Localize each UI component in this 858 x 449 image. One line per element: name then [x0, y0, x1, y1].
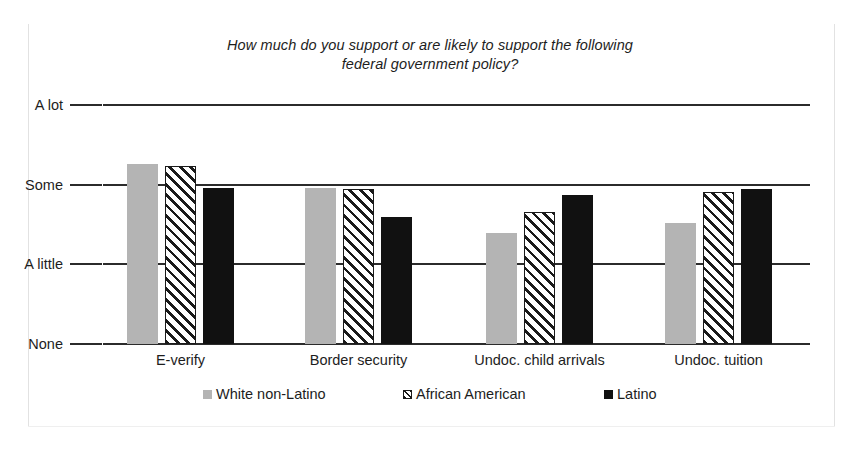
chart-legend: White non-LatinoAfrican AmericanLatino	[0, 386, 858, 406]
bar-latino	[203, 188, 234, 344]
frame-border-right	[834, 24, 835, 426]
bar-white-non-latino	[665, 223, 696, 344]
chart-title-line-1: How much do you support or are likely to…	[130, 36, 730, 55]
y-axis-tick	[70, 184, 102, 186]
x-axis-label-undoc-child-arrivals: Undoc. child arrivals	[474, 352, 605, 368]
gridline	[103, 184, 810, 186]
y-axis-tick-label: A lot	[35, 97, 63, 113]
y-axis-tick-label: A little	[24, 256, 63, 272]
legend-swatch-latino-icon	[604, 390, 613, 399]
bar-white-non-latino	[486, 233, 517, 344]
legend-label: African American	[416, 386, 526, 402]
frame-border-bottom	[28, 426, 835, 427]
y-axis-tick-label: Some	[25, 177, 63, 193]
y-axis-tick-label: None	[28, 336, 63, 352]
bar-latino	[381, 217, 412, 344]
y-axis-tick	[70, 343, 102, 345]
chart-figure: How much do you support or are likely to…	[0, 0, 858, 449]
bar-white-non-latino	[305, 188, 336, 344]
frame-border-left	[28, 24, 29, 426]
plot-area: NoneA littleSomeA lot	[103, 105, 810, 344]
legend-item-african-american[interactable]: African American	[403, 386, 526, 402]
chart-title: How much do you support or are likely to…	[130, 36, 730, 74]
legend-label: Latino	[617, 386, 657, 402]
y-axis-tick	[70, 104, 102, 106]
bar-african-american	[165, 166, 196, 344]
bar-african-american	[343, 189, 374, 344]
legend-label: White non-Latino	[216, 386, 326, 402]
chart-title-line-2: federal government policy?	[130, 55, 730, 74]
legend-item-latino[interactable]: Latino	[604, 386, 657, 402]
legend-item-white-non-latino[interactable]: White non-Latino	[203, 386, 326, 402]
gridline	[103, 104, 810, 106]
bar-african-american	[703, 192, 734, 344]
bar-latino	[562, 195, 593, 344]
x-axis-label-undoc-tuition: Undoc. tuition	[674, 352, 763, 368]
legend-swatch-white-non-latino-icon	[203, 390, 212, 399]
legend-swatch-african-american-icon	[403, 390, 412, 399]
y-axis-tick	[70, 263, 102, 265]
x-axis-label-e-verify: E-verify	[156, 352, 205, 368]
bar-latino	[741, 189, 772, 344]
bar-african-american	[524, 212, 555, 344]
x-axis-label-border-security: Border security	[310, 352, 408, 368]
bar-white-non-latino	[127, 164, 158, 344]
